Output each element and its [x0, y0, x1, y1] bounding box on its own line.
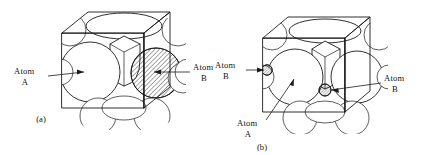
panel-b-atom-b-right-label-line2: B	[392, 84, 398, 94]
panel-b-atom-a-label-line1: Atom	[237, 118, 257, 128]
panel-b-atoms	[250, 19, 401, 135]
panel-b-atom-b-left-label-line2: B	[223, 71, 229, 81]
atom-corner-back-right	[364, 20, 394, 50]
atom-top-face	[86, 13, 162, 39]
large-host-atom-a	[267, 49, 323, 105]
panel-b-atom-b-left-label-line1: Atom	[215, 60, 235, 70]
panel-a-atom-a-label-line1: Atom	[14, 66, 34, 76]
panel-b-atom-b-right-label-line1: Atom	[384, 73, 404, 83]
panel-b-atom-a-label-line2: A	[245, 129, 252, 139]
atom-left-edge	[47, 59, 73, 85]
panel-a-group: Atom A Atom B (a)	[14, 12, 213, 134]
panel-a-atom-a-label-line2: A	[22, 77, 29, 87]
atom-corner-back-left	[54, 14, 86, 46]
atom-top-face	[289, 19, 361, 43]
panel-b-group: Atom B Atom A Atom B (b)	[215, 17, 404, 152]
figure-root: Atom A Atom B (a)	[0, 0, 422, 155]
panel-a-atom-b-label-line2: B	[201, 73, 207, 83]
panel-b-caption: (b)	[257, 142, 267, 152]
panel-a-atom-b-label-line1: Atom	[193, 62, 213, 72]
atom-corner-back-left	[257, 20, 287, 50]
solid-solution-figure: Atom A Atom B (a)	[0, 0, 422, 155]
panel-a-caption: (a)	[36, 114, 46, 124]
atom-corner-back-right	[162, 14, 194, 46]
large-host-atom-right	[331, 51, 383, 103]
